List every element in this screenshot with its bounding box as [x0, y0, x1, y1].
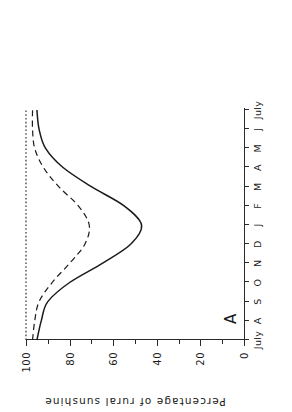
y-tick [244, 340, 245, 346]
x-tick [244, 262, 249, 263]
y-axis-title: Percentage of rural sunshine [44, 396, 226, 408]
x-tick [244, 243, 249, 244]
x-tick-label: July [252, 101, 263, 119]
y-tick-label: 20 [195, 352, 206, 366]
x-tick-label: M [252, 144, 263, 153]
data-curves [26, 110, 244, 340]
y-tick [70, 340, 71, 346]
y-tick-label: 40 [151, 352, 162, 366]
x-tick [244, 320, 249, 321]
x-tick [244, 128, 249, 129]
x-tick-label: S [252, 299, 263, 305]
plot-area [26, 110, 244, 340]
x-tick [244, 109, 249, 110]
x-tick [244, 282, 249, 283]
y-tick [113, 340, 114, 346]
y-tick-label: 0 [239, 352, 250, 359]
series-suburban-line [32, 110, 89, 340]
y-tick-label: 80 [64, 352, 75, 366]
x-tick-label: July [252, 331, 263, 349]
y-tick-minor [91, 340, 92, 344]
x-tick [244, 167, 249, 168]
x-tick-label: F [252, 203, 263, 209]
rotated-figure-canvas: JulyASONDJFMAMJJuly 020406080100 Percent… [0, 0, 292, 412]
y-tick-label: 100 [21, 352, 32, 373]
y-tick-minor [48, 340, 49, 344]
y-tick [26, 340, 27, 346]
y-tick-minor [222, 340, 223, 344]
x-tick [244, 186, 249, 187]
x-tick [244, 301, 249, 302]
y-tick-minor [179, 340, 180, 344]
y-tick [200, 340, 201, 346]
x-tick-label: J [252, 128, 263, 131]
x-tick-label: D [252, 240, 263, 248]
y-tick-label: 60 [108, 352, 119, 366]
x-tick-label: J [252, 223, 263, 226]
y-tick-minor [135, 340, 136, 344]
x-tick [244, 205, 249, 206]
x-tick-label: N [252, 260, 263, 267]
y-tick [157, 340, 158, 346]
x-tick-label: M [252, 182, 263, 191]
x-tick-label: A [252, 317, 263, 324]
x-tick-label: A [252, 164, 263, 171]
x-tick-label: O [252, 279, 263, 287]
x-tick [244, 147, 249, 148]
figure: JulyASONDJFMAMJJuly 020406080100 Percent… [0, 0, 292, 412]
x-tick [244, 224, 249, 225]
